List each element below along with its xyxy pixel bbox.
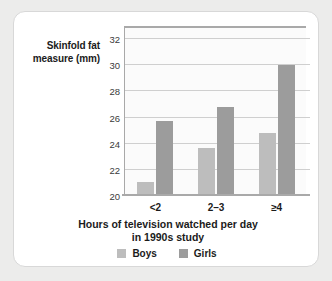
- x-axis-title-line1: Hours of television watched per day: [78, 218, 258, 230]
- bar-boys-3: [259, 133, 276, 196]
- x-axis-line: [122, 194, 310, 196]
- plot-frame: 20222426283032 <22–3≥4: [124, 26, 306, 196]
- bar-girls-1: [156, 121, 173, 196]
- chart-legend: BoysGirls: [14, 248, 320, 259]
- bar-girls-2: [217, 107, 234, 196]
- bar-girls-3: [278, 65, 295, 196]
- legend-swatch-icon: [179, 249, 188, 258]
- legend-label: Girls: [194, 248, 217, 259]
- x-tick-label: <2: [150, 202, 161, 213]
- legend-item-girls: Girls: [179, 248, 217, 259]
- legend-label: Boys: [132, 248, 156, 259]
- y-axis-title-line2: measure (mm): [33, 53, 100, 64]
- y-tick-label: 26: [109, 112, 120, 123]
- x-tick-label: 2–3: [208, 202, 225, 213]
- y-tick-label: 24: [109, 138, 120, 149]
- y-tick-label: 30: [109, 60, 120, 71]
- bar-boys-2: [198, 148, 215, 196]
- y-axis-title-line1: Skinfold fat: [47, 40, 100, 51]
- x-tick-label: ≥4: [271, 202, 282, 213]
- legend-item-boys: Boys: [117, 248, 156, 259]
- plot-area: 20222426283032 <22–3≥4: [125, 28, 306, 196]
- y-tick-label: 32: [109, 34, 120, 45]
- x-axis-title: Hours of television watched per day in 1…: [32, 218, 304, 244]
- y-axis-title: Skinfold fat measure (mm): [22, 40, 100, 65]
- x-axis-title-line2: in 1990s study: [32, 231, 304, 244]
- gridline: [125, 38, 310, 39]
- y-tick-label: 20: [109, 191, 120, 202]
- y-tick-label: 28: [109, 86, 120, 97]
- figure-card: Skinfold fat measure (mm) 20222426283032…: [13, 11, 319, 267]
- y-tick-label: 22: [109, 164, 120, 175]
- legend-swatch-icon: [117, 249, 126, 258]
